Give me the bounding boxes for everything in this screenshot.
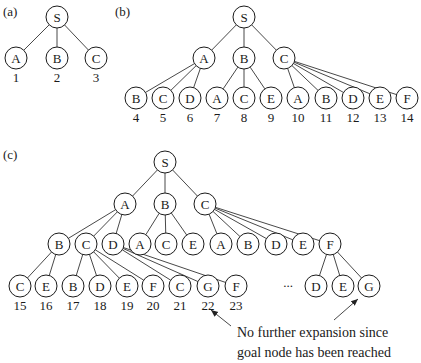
node-label: A	[293, 91, 303, 106]
node-label: E	[42, 279, 50, 294]
expansion-order-label: 13	[374, 110, 387, 125]
tree-node: D18	[89, 275, 111, 313]
node-label: F	[403, 91, 410, 106]
expansion-order-label: 9	[268, 110, 275, 125]
expansion-order-label: 7	[214, 110, 221, 125]
tree-edge	[171, 213, 186, 235]
tree-node: C	[75, 233, 97, 255]
tree-node: C8	[233, 87, 255, 125]
tree-node: C	[194, 193, 216, 215]
tree-node: C21	[169, 275, 191, 313]
node-label: B	[244, 237, 253, 252]
tree-edge	[213, 211, 240, 236]
tree-node: C	[273, 47, 295, 69]
tree-edge	[250, 67, 265, 89]
tree-node: D	[265, 233, 287, 255]
expansion-order-label: 14	[401, 110, 415, 125]
expansion-order-label: 3	[93, 70, 100, 85]
node-label: D	[185, 91, 194, 106]
tree-node: B	[237, 233, 259, 255]
node-label: S	[240, 10, 247, 25]
tree-node: B	[154, 193, 176, 215]
tree-node: A10	[287, 87, 309, 125]
tree-node: F23	[225, 275, 247, 313]
tree-edge	[27, 252, 51, 278]
panel-b-tree: (b)SABCB4C5D6A7C8E9A10B11D12E13F14	[115, 4, 418, 125]
search-tree-diagram: (a)SA1B2C3 (b)SABCB4C5D6A7C8E9A10B11D12E…	[0, 0, 421, 363]
tree-node: A1	[5, 47, 27, 85]
tree-node: E	[182, 233, 204, 255]
node-label: C	[159, 91, 168, 106]
tree-node: D	[102, 233, 124, 255]
tree-edge	[89, 254, 96, 275]
tree-node: A7	[206, 87, 228, 125]
node-label: E	[267, 91, 275, 106]
tree-edge	[209, 214, 217, 234]
arrow-icon	[211, 310, 231, 326]
tree-node: C5	[152, 87, 174, 125]
tree-edge	[319, 254, 326, 275]
tree-node: E13	[369, 87, 391, 125]
node-label: C	[82, 237, 91, 252]
expansion-order-label: 15	[14, 298, 27, 313]
node-label: E	[376, 91, 384, 106]
node-label: B	[69, 279, 78, 294]
tree-edge	[133, 170, 158, 196]
tree-node: F14	[396, 87, 418, 125]
tree-edge	[292, 66, 318, 91]
tree-edge	[288, 68, 295, 87]
panel-a-tree: (a)SA1B2C3	[3, 4, 107, 85]
tree-node: F20	[142, 275, 164, 313]
tree-node: C15	[9, 275, 31, 313]
tree-node: G	[358, 275, 380, 297]
panel-label: (a)	[3, 4, 17, 19]
tree-node: S	[154, 151, 176, 173]
node-label: D	[311, 279, 320, 294]
node-label: E	[339, 279, 347, 294]
tree-node: E16	[35, 275, 57, 313]
tree-edge	[252, 25, 277, 50]
node-label: S	[53, 10, 60, 25]
tree-edge	[212, 25, 237, 50]
tree-node: F	[319, 233, 341, 255]
node-label: B	[240, 51, 249, 66]
node-label: F	[149, 279, 156, 294]
node-label: B	[53, 51, 62, 66]
tree-node: B	[48, 233, 70, 255]
expansion-order-label: 10	[292, 110, 305, 125]
tree-node: B11	[315, 87, 337, 125]
expansion-order-label: 20	[147, 298, 160, 313]
tree-edge	[333, 255, 339, 276]
tree-edge	[49, 255, 55, 276]
node-label: S	[161, 155, 168, 170]
tree-node: D	[305, 275, 327, 297]
node-label: E	[123, 279, 131, 294]
tree-edge	[171, 66, 196, 91]
expansion-order-label: 8	[241, 110, 248, 125]
node-label: F	[326, 237, 333, 252]
node-label: B	[161, 197, 170, 212]
panel-label: (b)	[115, 4, 130, 19]
tree-node: E19	[116, 275, 138, 313]
tree-node: G22	[197, 275, 219, 313]
ellipsis: ...	[283, 275, 293, 290]
tree-edge	[24, 25, 49, 50]
tree-edge	[94, 252, 120, 278]
tree-node: D6	[179, 87, 201, 125]
node-label: A	[120, 197, 130, 212]
panel-c-tree: (c)SABCBCDACEABDEFC15E16B17D18E19F20C21G…	[3, 147, 391, 360]
node-label: A	[135, 237, 145, 252]
node-label: A	[11, 51, 21, 66]
node-label: A	[216, 237, 226, 252]
tree-node: A	[210, 233, 232, 255]
tree-edge	[146, 213, 159, 234]
node-label: C	[240, 91, 249, 106]
node-label: D	[271, 237, 280, 252]
tree-edge	[223, 67, 238, 89]
expansion-order-label: 4	[133, 110, 140, 125]
node-label: G	[203, 279, 212, 294]
node-label: C	[176, 279, 185, 294]
expansion-order-label: 18	[94, 298, 107, 313]
node-label: D	[348, 91, 357, 106]
expansion-order-label: 11	[320, 110, 333, 125]
